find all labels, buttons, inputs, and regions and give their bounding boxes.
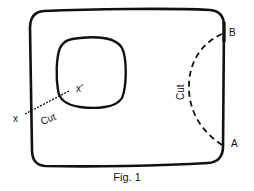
cut-arc-a-b (189, 34, 222, 145)
label-cut-right: Cut (175, 84, 186, 100)
label-x-prime: x′ (76, 83, 83, 94)
figure-caption: Fig. 1 (0, 171, 254, 183)
label-b: B (229, 27, 236, 38)
label-a: A (231, 138, 238, 149)
label-cut-left: Cut (39, 111, 58, 127)
label-x: x (13, 113, 18, 124)
inner-hole-boundary (57, 37, 126, 108)
outer-region-boundary (30, 9, 224, 166)
diagram-canvas: x x′ Cut Cut B A (0, 0, 254, 191)
figure-1: x x′ Cut Cut B A Fig. 1 (0, 0, 254, 191)
